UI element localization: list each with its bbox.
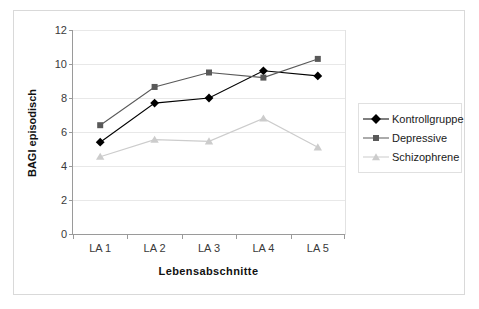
y-tick-label-10: 10 [55,58,67,70]
y-tickmark-10 [69,64,73,65]
series-kontrollgruppe [96,66,322,146]
x-tick-label-la1: LA 1 [89,242,111,254]
x-tickmark-5 [344,234,345,239]
chart-legend: Kontrollgruppe Depressive Schizophrene [358,103,462,173]
gridline-8 [73,98,345,99]
y-tick-label-0: 0 [61,228,67,240]
gridline-10 [73,64,345,65]
x-tickmark-4 [291,234,292,239]
y-tickmark-2 [69,200,73,201]
y-axis-title-wrapper: BAGI episodisch [24,30,40,235]
legend-marker-square-icon [363,132,389,144]
y-axis-title: BAGI episodisch [26,88,38,176]
y-tickmark-4 [69,166,73,167]
y-tickmark-8 [69,98,73,99]
y-tick-label-2: 2 [61,194,67,206]
y-tick-label-12: 12 [55,24,67,36]
series-depressive [97,56,321,128]
legend-label-kontrollgruppe: Kontrollgruppe [392,113,464,125]
y-tickmark-12 [69,30,73,31]
x-axis-title: Lebensabschnitte [72,265,345,277]
x-tick-label-la4: LA 4 [252,242,274,254]
plot-frame-right [345,30,346,235]
gridline-4 [73,166,345,167]
legend-label-depressive: Depressive [392,132,447,144]
legend-label-schizophrene: Schizophrene [392,151,459,163]
legend-item-schizophrene[interactable]: Schizophrene [361,147,459,166]
x-tick-label-la5: LA 5 [307,242,329,254]
y-tick-label-4: 4 [61,160,67,172]
chart-figure: BAGI episodisch 12 10 8 6 4 2 0 L [13,10,465,295]
gridline-6 [73,132,345,133]
legend-item-kontrollgruppe[interactable]: Kontrollgruppe [361,109,459,128]
legend-marker-diamond-icon [363,113,389,125]
x-tickmark-0 [73,234,74,239]
y-tickmark-6 [69,132,73,133]
x-tickmark-1 [127,234,128,239]
gridline-2 [73,200,345,201]
x-tickmark-2 [182,234,183,239]
x-tick-label-la2: LA 2 [144,242,166,254]
series-schizophrene [96,114,322,159]
y-tick-label-8: 8 [61,92,67,104]
plot-area: 12 10 8 6 4 2 0 LA 1 LA 2 LA 3 LA 4 LA 5 [72,30,345,235]
y-tick-label-6: 6 [61,126,67,138]
x-tick-label-la3: LA 3 [198,242,220,254]
gridline-12 [73,30,345,31]
legend-item-depressive[interactable]: Depressive [361,128,459,147]
legend-marker-triangle-icon [363,151,389,163]
x-tickmark-3 [236,234,237,239]
